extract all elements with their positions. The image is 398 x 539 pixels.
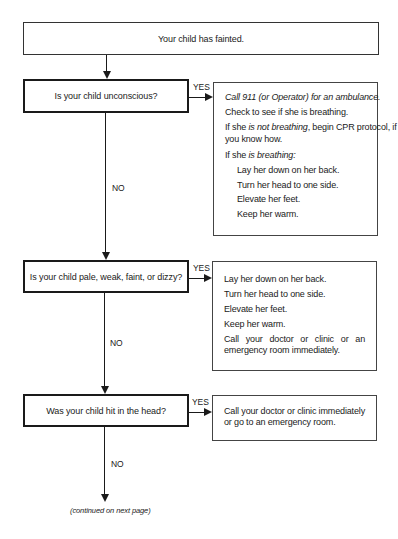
item: Elevate her feet. [224,304,368,315]
start-text: Your child has fainted. [158,34,244,44]
arrow-right-icon [204,408,212,416]
arrow-right-icon [205,93,213,101]
answer-box-pale-weak: Lay her down on her back. Turn her head … [212,261,377,371]
no-label: NO [110,338,123,348]
check-breathing-line: Check to see if she is breathing. [225,107,369,118]
arrow-down-icon [101,386,109,394]
no-label: NO [111,459,124,469]
sub-item: Lay her down on her back. [237,165,369,176]
arrow-down-icon [102,252,110,260]
not-breathing-line: If she is not breathing, begin CPR proto… [225,122,369,133]
answer-box-hit-head: Call your doctor or clinic immediately o… [212,395,377,441]
arrow-down-icon [101,494,109,502]
item: Turn her head to one side. [224,289,368,300]
sub-item: Elevate her feet. [237,194,369,205]
yes-label: YES [192,397,209,407]
question-text: Is your child pale, weak, faint, or dizz… [30,272,182,282]
start-box: Your child has fainted. [23,22,379,55]
connector-yes-2 [189,278,205,279]
question-box-unconscious: Is your child unconscious? [23,79,189,113]
question-box-hit-head: Was your child hit in the head? [23,394,189,427]
question-box-pale-weak: Is your child pale, weak, faint, or dizz… [23,260,189,293]
call-doctor-er-line: Call your doctor or clinic immediately o… [224,406,365,428]
connector-no-2 [104,293,105,387]
not-breathing-cont: you know how. [225,134,369,145]
connector-no-3 [104,427,105,495]
call-doctor-line: Call your doctor or clinic or an emergen… [224,334,365,356]
question-text: Is your child unconscious? [55,91,158,101]
item: Keep her warm. [224,319,368,330]
connector-yes-1 [189,97,206,98]
arrow-right-icon [204,274,212,282]
continued-note: (continued on next page) [70,506,151,515]
call-911-line: Call 911 (or Operator) for an ambulance. [225,92,369,103]
yes-label: YES [193,263,210,273]
connector-start-q1 [106,55,107,72]
breathing-line: If she is breathing: [225,150,369,161]
question-text: Was your child hit in the head? [46,406,166,416]
connector-yes-3 [189,412,205,413]
sub-item: Turn her head to one side. [237,180,369,191]
yes-label: YES [193,82,210,92]
connector-no-1 [105,113,106,253]
sub-item: Keep her warm. [237,209,369,220]
item: Lay her down on her back. [224,274,368,285]
arrow-down-icon [103,71,111,79]
answer-box-unconscious: Call 911 (or Operator) for an ambulance.… [213,82,378,236]
no-label: NO [112,183,125,193]
